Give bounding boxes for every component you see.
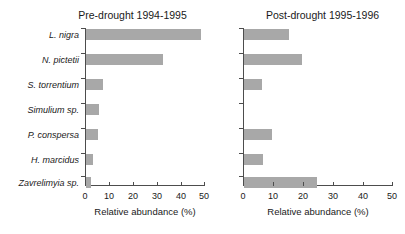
- bar-s-torrentium: [86, 79, 103, 90]
- y-tick: [81, 53, 85, 54]
- bar-row: [86, 177, 91, 188]
- y-tick: [239, 28, 243, 29]
- cat-label-n-pictetii: N. pictetii: [42, 55, 79, 65]
- x-axis-caption-post: Relative abundance (%): [243, 206, 393, 217]
- x-tick-label: 0: [82, 191, 87, 201]
- y-tick: [81, 103, 85, 104]
- x-tick-label: 10: [104, 191, 114, 201]
- bar-p-conspersa: [86, 129, 98, 140]
- x-tick-label: 40: [358, 191, 368, 201]
- x-tick-label: 30: [152, 191, 162, 201]
- x-tick-label: 40: [176, 191, 186, 201]
- y-tick: [81, 176, 85, 177]
- bar-l-nigra: [86, 29, 201, 40]
- cat-label-simulium-sp: Simulium sp.: [27, 105, 79, 115]
- x-tick: [109, 182, 110, 186]
- x-tick-label: 20: [128, 191, 138, 201]
- bar-l-nigra: [244, 29, 289, 40]
- x-tick: [157, 182, 158, 186]
- x-tick: [333, 182, 334, 186]
- x-tick-label: 30: [328, 191, 338, 201]
- x-tick: [303, 182, 304, 186]
- bar-zavrelimyia-sp: [86, 177, 91, 188]
- y-tick: [239, 103, 243, 104]
- x-tick-label: 10: [268, 191, 278, 201]
- bar-row: [244, 129, 272, 140]
- bar-h-marcidus: [244, 154, 263, 165]
- figure: Pre-drought 1994-1995 L. nigra N. pictet…: [0, 0, 405, 234]
- x-tick: [243, 182, 244, 186]
- y-tick: [239, 78, 243, 79]
- y-tick: [239, 176, 243, 177]
- bar-p-conspersa: [244, 129, 272, 140]
- panel-title-post-drought: Post-drought 1995-1996: [200, 9, 405, 21]
- x-axis-caption-pre: Relative abundance (%): [85, 206, 205, 217]
- bar-row: [86, 129, 98, 140]
- bar-h-marcidus: [86, 154, 93, 165]
- bar-row: [244, 177, 317, 188]
- x-tick: [392, 182, 393, 186]
- bar-row: [86, 154, 93, 165]
- x-tick-label: 20: [298, 191, 308, 201]
- bar-row: [244, 154, 263, 165]
- cat-label-h-marcidus: H. marcidus: [31, 155, 79, 165]
- x-tick: [363, 182, 364, 186]
- bar-simulium-sp: [86, 104, 99, 115]
- bar-row: [244, 79, 262, 90]
- bar-s-torrentium: [244, 79, 262, 90]
- cat-label-s-torrentium: S. torrentium: [27, 80, 79, 90]
- y-tick: [239, 53, 243, 54]
- y-tick: [81, 153, 85, 154]
- bar-row: [244, 54, 302, 65]
- bar-row: [86, 54, 163, 65]
- plot-area-post-drought: 0 10 20 30 40 50 Relative abundance (%): [243, 28, 393, 186]
- panel-post-drought: Post-drought 1995-1996: [200, 0, 405, 234]
- x-tick: [133, 182, 134, 186]
- cat-label-l-nigra: L. nigra: [49, 30, 79, 40]
- panel-title-pre-drought: Pre-drought 1994-1995: [0, 9, 205, 21]
- bar-row: [86, 29, 201, 40]
- bar-n-pictetii: [244, 54, 302, 65]
- plot-area-pre-drought: 0 10 20 30 40 50 Relative abundance (%): [85, 28, 205, 186]
- x-tick: [181, 182, 182, 186]
- y-tick: [81, 128, 85, 129]
- y-tick: [81, 78, 85, 79]
- x-axis-line: [85, 185, 205, 186]
- x-tick: [85, 182, 86, 186]
- category-axis-labels-pre: L. nigra N. pictetii S. torrentium Simul…: [0, 28, 82, 186]
- panel-pre-drought: Pre-drought 1994-1995 L. nigra N. pictet…: [0, 0, 205, 234]
- x-tick: [273, 182, 274, 186]
- bar-zavrelimyia-sp: [244, 177, 317, 188]
- bar-row: [244, 29, 289, 40]
- bar-n-pictetii: [86, 54, 163, 65]
- cat-label-p-conspersa: P. conspersa: [28, 130, 79, 140]
- cat-label-zavrelimyia-sp: Zavrelimyia sp.: [18, 178, 79, 188]
- x-tick-label: 50: [387, 191, 397, 201]
- y-tick: [239, 153, 243, 154]
- y-tick: [81, 28, 85, 29]
- x-tick-label: 0: [240, 191, 245, 201]
- bar-row: [86, 104, 99, 115]
- y-tick: [239, 128, 243, 129]
- bar-row: [86, 79, 103, 90]
